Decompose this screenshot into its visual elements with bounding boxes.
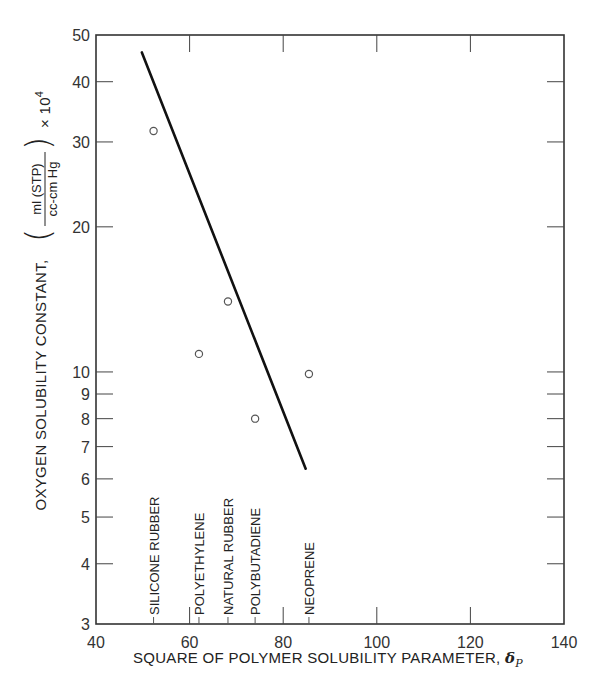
plot-frame [96,35,564,624]
y-tick-label: 7 [81,439,90,456]
y-tick-label: 6 [81,471,90,488]
data-point [195,350,202,357]
y-tick-label: 9 [81,386,90,403]
y-tick-label: 3 [81,616,90,633]
ylabel-denominator: cc-cm Hg [45,162,60,217]
right-paren: ) [18,137,58,150]
polymer-label: SILICONE RUBBER [147,497,162,615]
svg-text:OXYGEN SOLUBILITY CONSTANT,: OXYGEN SOLUBILITY CONSTANT, [32,260,49,511]
polymer-label: POLYETHYLENE [192,512,207,615]
data-point [150,127,157,134]
y-tick-label: 10 [72,364,90,381]
ylabel-multiplier: × 104 [33,91,53,128]
y-tick-label: 5 [81,509,90,526]
data-point [252,415,259,422]
y-tick-label: 50 [72,27,90,44]
y-tick-label: 8 [81,411,90,428]
x-tick-label: 40 [87,634,105,651]
y-tick-label: 4 [81,556,90,573]
data-point [224,298,231,305]
left-paren: ( [18,229,58,242]
x-tick-label: 140 [551,634,578,651]
ylabel-numerator: ml (STP) [29,163,44,214]
y-tick-label: 40 [72,74,90,91]
y-axis-title: OXYGEN SOLUBILITY CONSTANT, ( ml (STP) c… [18,91,60,511]
y-tick-label: 30 [72,134,90,151]
chart: 406080100120140 34567891020304050 SILICO… [0,0,606,697]
data-point [305,370,312,377]
polymer-labels: SILICONE RUBBERPOLYETHYLENENATURAL RUBBE… [147,497,317,624]
polymer-label: NATURAL RUBBER [221,498,236,615]
x-axis-title: SQUARE OF POLYMER SOLUBILITY PARAMETER, … [133,649,523,670]
y-tick-label: 20 [72,219,90,236]
polymer-label: POLYBUTADIENE [248,508,263,615]
polymer-label: NEOPRENE [302,542,317,615]
axes-box [96,35,564,624]
data-points [150,127,313,422]
fit-line [142,52,306,468]
regression-line [142,52,306,468]
